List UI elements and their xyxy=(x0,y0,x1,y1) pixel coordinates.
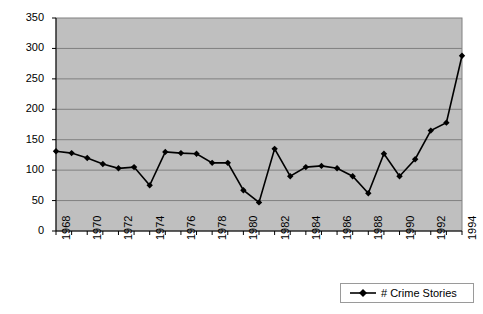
x-tick-label: 1972 xyxy=(123,216,134,240)
x-tick-label: 1988 xyxy=(373,216,384,240)
legend-item-crime-stories: # Crime Stories xyxy=(341,284,473,302)
y-tick-label: 250 xyxy=(14,73,44,84)
x-tick-label: 1994 xyxy=(467,216,478,240)
x-tick-label: 1986 xyxy=(342,216,353,240)
x-tick-label: 1974 xyxy=(155,216,166,240)
plot-area xyxy=(56,18,462,231)
x-tick-label: 1990 xyxy=(405,216,416,240)
y-tick-label: 350 xyxy=(14,12,44,23)
x-axis-ticks xyxy=(56,231,462,235)
chart-canvas xyxy=(0,0,483,314)
y-tick-label: 0 xyxy=(14,225,44,236)
legend-label: # Crime Stories xyxy=(381,287,457,299)
y-tick-label: 200 xyxy=(14,103,44,114)
x-tick-label: 1992 xyxy=(436,216,447,240)
y-tick-label: 50 xyxy=(14,195,44,206)
chart-legend: # Crime Stories xyxy=(340,283,474,303)
x-tick-label: 1982 xyxy=(280,216,291,240)
x-tick-label: 1968 xyxy=(61,216,72,240)
legend-line-marker-icon xyxy=(349,287,377,299)
y-axis-ticks xyxy=(52,18,56,231)
x-tick-label: 1970 xyxy=(92,216,103,240)
x-tick-label: 1984 xyxy=(311,216,322,240)
x-tick-label: 1980 xyxy=(248,216,259,240)
y-tick-label: 100 xyxy=(14,164,44,175)
y-tick-label: 150 xyxy=(14,134,44,145)
x-tick-label: 1978 xyxy=(217,216,228,240)
y-tick-label: 300 xyxy=(14,42,44,53)
x-tick-label: 1976 xyxy=(186,216,197,240)
chart-container: 350300250200150100500 196819701972197419… xyxy=(0,0,483,314)
